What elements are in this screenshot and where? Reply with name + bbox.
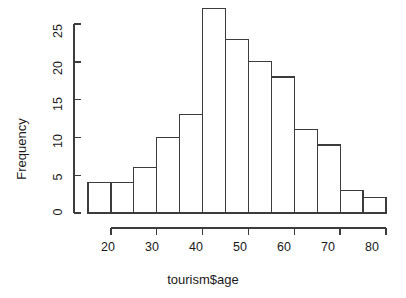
- histogram-bars: [88, 9, 386, 213]
- histogram-bar: [294, 130, 317, 213]
- histogram-bar: [203, 9, 226, 213]
- histogram-plot: Frequency tourism$age 0 5 10 15 20 25 20…: [0, 0, 406, 298]
- histogram-bar: [363, 198, 386, 213]
- histogram-bar: [134, 168, 157, 213]
- histogram-bar: [88, 183, 111, 213]
- histogram-bar: [226, 39, 249, 213]
- histogram-bar: [340, 190, 363, 213]
- histogram-bar: [248, 62, 271, 213]
- histogram-bar: [317, 145, 340, 213]
- chart-canvas: [0, 0, 406, 298]
- histogram-bar: [111, 183, 134, 213]
- histogram-bar: [180, 115, 203, 213]
- histogram-bar: [157, 137, 180, 213]
- histogram-bar: [271, 77, 294, 213]
